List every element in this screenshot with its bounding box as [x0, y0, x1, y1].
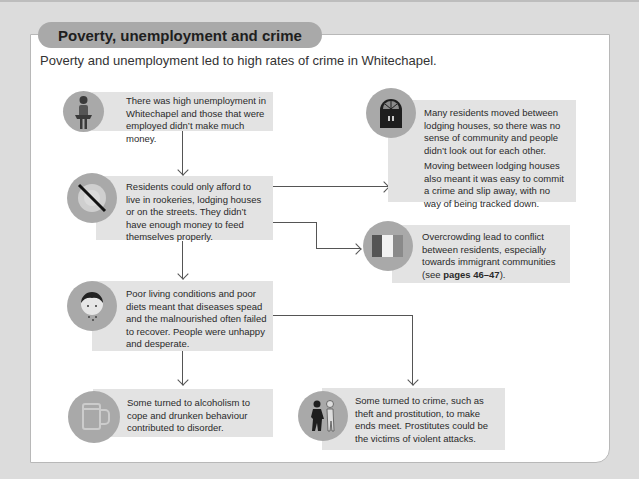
box-alcohol: Some turned to alcoholism to cope and dr…: [93, 389, 273, 437]
page-reference: pages 46–47: [443, 269, 500, 280]
connector-2-4b: [316, 222, 317, 249]
person-empty-pockets-icon: [63, 91, 104, 132]
criminal-figures-icon: [298, 391, 348, 441]
page-top-rule: [0, 0, 639, 2]
box-text: Overcrowding lead to conflict between re…: [422, 231, 564, 281]
box-text-2: Moving between lodging houses also meant…: [424, 160, 568, 210]
box-community: Many residents moved between lodging hou…: [388, 100, 576, 202]
box-conflict: Overcrowding lead to conflict between re…: [392, 225, 570, 283]
box-housing: Residents could only afford to live in r…: [96, 176, 273, 240]
box-text: There was high unemployment in Whitechap…: [126, 95, 267, 145]
door-icon: [366, 88, 416, 138]
box-text: Some turned to crime, such as theft and …: [355, 395, 499, 445]
connector-2-4a: [273, 222, 317, 223]
box-unemployment: There was high unemployment in Whitechap…: [92, 92, 273, 131]
box-text-1: Many residents moved between lodging hou…: [424, 107, 568, 157]
section-intro: Poverty and unemployment led to high rat…: [40, 53, 437, 68]
box-text: Some turned to alcoholism to cope and dr…: [127, 397, 267, 435]
box-disease: Poor living conditions and poor diets me…: [92, 281, 273, 351]
box-text: Residents could only afford to live in r…: [126, 181, 267, 244]
beer-mug-icon: [68, 391, 120, 443]
box-text: Poor living conditions and poor diets me…: [126, 288, 267, 351]
no-food-plate-icon: [67, 173, 117, 223]
connector-2-3: [273, 186, 391, 187]
section-title: Poverty, unemployment and crime: [38, 22, 322, 48]
sick-person-icon: [67, 281, 117, 331]
flag-icon: [363, 221, 413, 271]
connector-5-7a: [273, 315, 413, 316]
box-crime: Some turned to crime, such as theft and …: [322, 388, 505, 450]
